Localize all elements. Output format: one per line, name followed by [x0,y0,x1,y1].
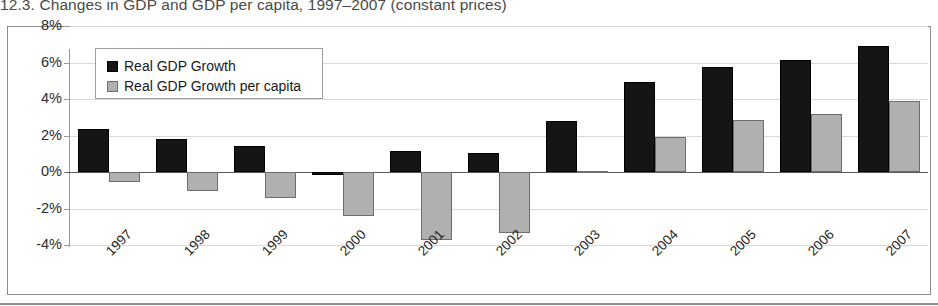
bar-group [538,26,616,245]
bar [858,46,889,172]
y-axis-tick-label: 4% [4,90,62,106]
y-axis-tick-label: 2% [4,127,62,143]
bar [234,146,265,172]
y-axis-labels: 8%6%4%2%0%-2%-4% [0,26,62,256]
bar [468,153,499,172]
bar-group [850,26,928,245]
legend-item-real-gdp-growth: Real GDP Growth [107,57,236,75]
bar-group [382,26,460,245]
bar-group [694,26,772,245]
bar [312,172,343,175]
bar [546,121,577,172]
bar-group [460,26,538,245]
bar [624,82,655,172]
y-axis-tick-label: 6% [4,54,62,70]
y-axis-tick-label: -2% [4,200,62,216]
x-axis-labels: 1997199819992000200120022003200420052006… [70,248,928,300]
bar [780,60,811,172]
bar [733,120,764,172]
legend-label: Real GDP Growth per capita [124,78,301,94]
y-axis-tick-label: 8% [4,17,62,33]
legend-swatch-icon-black [107,61,118,72]
bar [702,67,733,172]
bar [187,172,218,191]
y-axis-tick-mark [64,26,69,27]
bar [811,114,842,172]
bar [390,151,421,172]
bar [577,171,608,173]
bar [343,172,374,216]
legend-item-real-gdp-growth-per-capita: Real GDP Growth per capita [107,77,301,95]
bar [265,172,296,198]
bar [889,101,920,172]
chart-legend: Real GDP Growth Real GDP Growth per capi… [95,48,323,99]
legend-swatch-icon-gray [107,81,118,92]
bar [655,137,686,172]
y-axis-tick-label: 0% [4,163,62,179]
bar [78,129,109,172]
bar-group [772,26,850,245]
figure-caption: 12.3. Changes in GDP and GDP per capita,… [0,0,938,18]
page-divider [0,303,938,305]
figure: 12.3. Changes in GDP and GDP per capita,… [0,0,938,306]
bar [109,172,140,182]
bar [156,139,187,172]
legend-label: Real GDP Growth [124,58,236,74]
bar [499,172,530,233]
bar-group [616,26,694,245]
y-axis-tick-label: -4% [4,236,62,252]
